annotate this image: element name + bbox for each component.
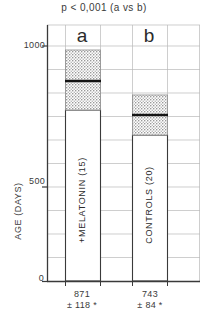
y-tick-label-1000: 1000 xyxy=(24,40,45,50)
bar-a-category-label: +MELATONIN (15) xyxy=(77,125,87,275)
figure-container: p < 0,001 (a vs b) xyxy=(0,0,208,318)
bar-a-error-value: ± 118 * xyxy=(50,300,114,311)
y-axis-title: AGE (DAYS) xyxy=(13,171,23,251)
y-tick-label-0: 0 xyxy=(39,273,44,283)
bar-b-mean-value: 743 xyxy=(118,289,182,300)
x-axis-ticks xyxy=(66,282,168,287)
y-axis-ticks xyxy=(42,46,48,282)
bar-b-error-value: ± 84 * xyxy=(118,300,182,311)
bar-a-mean-value: 871 xyxy=(50,289,114,300)
bar-b-category-label: CONTROLS (20) xyxy=(144,130,154,280)
group-letter-b: b xyxy=(131,26,167,45)
bar-b-value-block: 743 ± 84 * xyxy=(118,289,182,311)
bar-a-value-block: 871 ± 118 * xyxy=(50,289,114,311)
group-letter-a: a xyxy=(64,26,100,45)
y-tick-label-500: 500 xyxy=(29,176,45,186)
